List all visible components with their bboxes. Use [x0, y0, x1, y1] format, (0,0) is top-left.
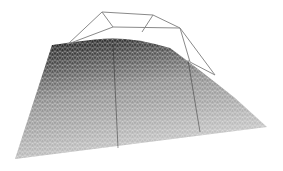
mesh-figure [0, 0, 283, 171]
subdivision-surface-render [0, 0, 283, 171]
cage-edge [153, 15, 180, 28]
cage-edge [102, 12, 113, 27]
triangle-mesh-pattern [0, 0, 283, 171]
mesh-surface [0, 0, 283, 171]
cage-edge [142, 15, 153, 32]
cage-edge [102, 12, 153, 15]
cage-edge [113, 27, 180, 28]
cage-edge [68, 12, 102, 44]
